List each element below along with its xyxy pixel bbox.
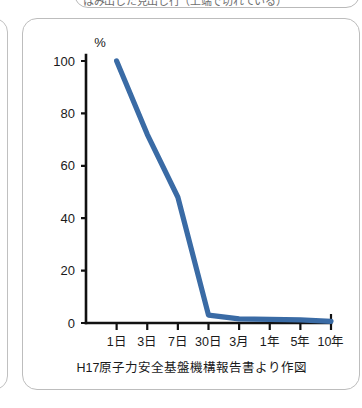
- y-axis-tick-label: 60: [61, 158, 75, 173]
- chart-card: %0204060801001日3日7日30日3月1年5年10年 H17原子力安全…: [22, 18, 360, 390]
- clipped-banner-text: はみ出した見出し行（上端で切れている）: [83, 0, 286, 8]
- x-axis-tick-label: 3日: [137, 335, 157, 349]
- y-axis-tick-label: 100: [53, 54, 75, 69]
- x-axis-tick-label: 3月: [229, 335, 249, 349]
- x-axis-tick-label: 1年: [260, 335, 280, 349]
- left-partial-card: [0, 18, 8, 390]
- x-axis-tick-label: 5年: [290, 335, 310, 349]
- x-axis-tick-label: 10年: [318, 335, 345, 349]
- x-axis-tick-label: 30日: [195, 335, 222, 349]
- chart-caption: H17原子力安全基盤機構報告書より作図: [23, 357, 360, 376]
- chart-plot-area: %0204060801001日3日7日30日3月1年5年10年: [23, 19, 360, 390]
- data-series-line: [117, 61, 331, 321]
- y-axis-tick-label: 20: [61, 263, 75, 278]
- y-axis-tick-label: 40: [61, 211, 75, 226]
- y-axis-tick-label: 0: [68, 316, 75, 331]
- clipped-banner-card: はみ出した見出し行（上端で切れている）: [74, 0, 360, 8]
- x-axis-tick-label: 7日: [168, 335, 188, 349]
- x-axis-tick-label: 1日: [107, 335, 127, 349]
- y-axis-tick-label: 80: [61, 106, 75, 121]
- y-axis-unit-label: %: [94, 35, 106, 50]
- decay-line-chart: %0204060801001日3日7日30日3月1年5年10年: [23, 19, 360, 390]
